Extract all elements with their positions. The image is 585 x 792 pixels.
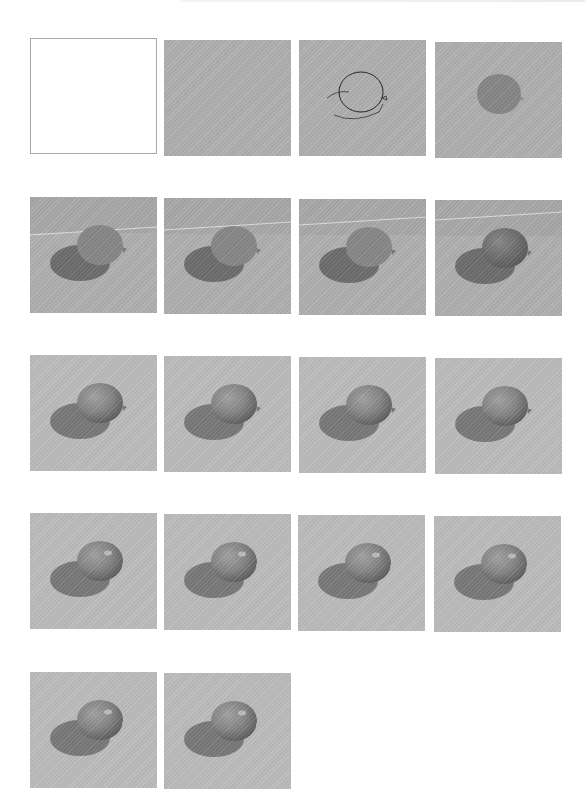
stage-panel-13 (30, 513, 157, 629)
page-edge-line (180, 0, 585, 2)
stage-panel-17 (30, 672, 157, 788)
stage-panel-6 (164, 198, 291, 314)
stage-panel-2 (164, 40, 291, 156)
stage-panel-5 (30, 197, 157, 313)
stage-panel-15 (298, 515, 425, 631)
stage-panel-10 (164, 356, 291, 472)
stage-panel-16 (434, 516, 561, 632)
stage-panel-1 (30, 38, 157, 154)
stage-panel-12 (435, 358, 562, 474)
stage-panel-11 (299, 357, 426, 473)
stage-panel-7 (299, 199, 426, 315)
stage-panel-18 (164, 673, 291, 789)
stage-panel-9 (30, 355, 157, 471)
stage-panel-4 (435, 42, 562, 158)
stage-panel-8 (435, 200, 562, 316)
stage-panel-14 (164, 514, 291, 630)
stage-panel-3 (299, 40, 426, 156)
